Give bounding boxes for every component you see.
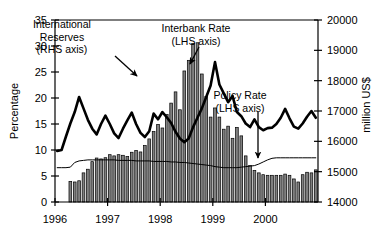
y2-tick-label: 17000: [327, 105, 358, 117]
bar: [314, 170, 317, 202]
bar: [257, 173, 260, 202]
bar: [69, 181, 72, 202]
bar: [113, 156, 116, 202]
bar: [157, 124, 160, 202]
y2-tick-label: 19000: [327, 44, 358, 56]
bar: [288, 175, 291, 202]
bar: [95, 158, 98, 202]
bar: [108, 155, 111, 202]
bar: [187, 60, 190, 202]
bar: [244, 156, 247, 202]
bar: [100, 159, 103, 202]
bar: [222, 129, 225, 202]
annotation-label: (LHS axis): [215, 102, 264, 114]
y2-tick-label: 14000: [327, 196, 358, 208]
bar: [148, 139, 151, 202]
bar: [104, 158, 107, 202]
bar: [130, 152, 133, 202]
bar: [231, 138, 234, 202]
bar: [275, 175, 278, 202]
bar: [253, 170, 256, 202]
bar: [170, 103, 173, 202]
bar: [218, 117, 221, 202]
bar: [165, 115, 168, 202]
bar: [306, 172, 309, 202]
bar: [284, 174, 287, 202]
bar: [301, 175, 304, 202]
bar: [249, 166, 252, 202]
bar: [297, 182, 300, 202]
bar: [266, 175, 269, 202]
annotation-label: Policy Rate: [213, 89, 266, 101]
chart-container: 05101520253035 1400015000160001700018000…: [0, 0, 374, 244]
y-axis-left-title: Percentage: [8, 83, 20, 139]
bar: [209, 117, 212, 202]
bar: [78, 181, 81, 202]
y-tick-label: 10: [35, 144, 47, 156]
bar: [183, 71, 186, 202]
x-tick-label: 2000: [253, 213, 277, 225]
y2-tick-label: 18000: [327, 75, 358, 87]
bar: [152, 132, 155, 202]
bar: [139, 152, 142, 202]
y2-tick-label: 16000: [327, 135, 358, 147]
bar: [236, 127, 239, 202]
x-tick-label: 1997: [95, 213, 119, 225]
y2-tick-label: 20000: [327, 14, 358, 26]
y-tick-label: 20: [35, 92, 47, 104]
y2-tick-label: 15000: [327, 166, 358, 178]
x-tick-label: 1998: [148, 213, 172, 225]
bar: [200, 74, 203, 202]
annotation-label: International: [33, 18, 91, 30]
y-tick-label: 25: [35, 66, 47, 78]
y-axis-right-title: million US$: [360, 77, 372, 133]
annotation-label: (RHS axis): [37, 43, 88, 55]
annotation-label: Interbank Rate: [162, 22, 231, 34]
bar: [91, 162, 94, 202]
bar: [144, 146, 147, 202]
bar: [179, 110, 182, 202]
bar: [293, 179, 296, 202]
bar: [240, 136, 243, 202]
bar: [214, 108, 217, 202]
bar: [279, 175, 282, 202]
bar: [161, 128, 164, 202]
bar: [87, 169, 90, 202]
bar: [310, 173, 313, 202]
economic-indicators-chart: 05101520253035 1400015000160001700018000…: [0, 0, 374, 244]
bar: [126, 157, 129, 203]
bar: [73, 182, 76, 202]
y-tick-label: 5: [41, 170, 47, 182]
x-tick-label: 1999: [201, 213, 225, 225]
bar: [82, 173, 85, 202]
bar: [122, 155, 125, 202]
annotation-label: Reserves: [40, 31, 84, 43]
bar: [117, 155, 120, 202]
bar: [205, 96, 208, 202]
annotation-label: (LHS axis): [171, 35, 220, 47]
bar: [227, 126, 230, 202]
bar: [174, 92, 177, 202]
x-tick-label: 1996: [43, 213, 67, 225]
bar: [135, 150, 138, 202]
y-tick-label: 15: [35, 118, 47, 130]
bar: [271, 175, 274, 202]
bar: [262, 175, 265, 202]
y-tick-label: 0: [41, 196, 47, 208]
